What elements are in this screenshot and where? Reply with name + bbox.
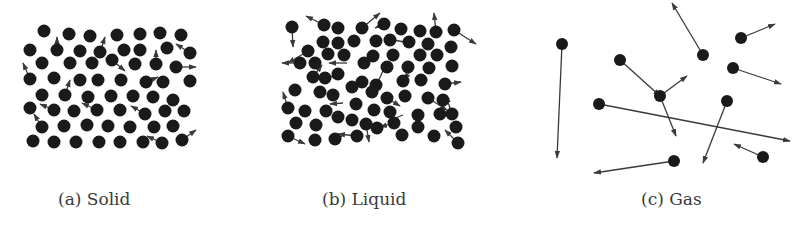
particle	[356, 22, 369, 35]
particle	[129, 58, 142, 71]
particle	[366, 86, 379, 99]
particle	[314, 86, 327, 99]
particle	[36, 121, 49, 134]
particle	[452, 137, 465, 150]
particle	[167, 94, 180, 107]
particle	[68, 105, 81, 118]
particle	[384, 34, 397, 47]
particle	[434, 108, 447, 121]
particle	[64, 57, 77, 70]
particle	[38, 25, 51, 38]
particle	[320, 105, 333, 118]
particle	[388, 117, 401, 130]
particle	[446, 108, 459, 121]
caption-solid: (a) Solid	[58, 189, 130, 209]
particle	[175, 29, 188, 42]
velocity-arrow	[599, 104, 790, 141]
particle	[735, 32, 747, 44]
particle	[721, 95, 733, 107]
particle	[127, 90, 140, 103]
particle	[102, 120, 115, 133]
particle	[148, 121, 161, 134]
particle	[115, 74, 128, 87]
particle	[338, 49, 351, 62]
particle	[24, 44, 37, 57]
particle	[63, 28, 76, 41]
particle	[302, 45, 315, 58]
velocity-arrow	[594, 161, 674, 173]
particle	[178, 105, 191, 118]
particle	[24, 73, 37, 86]
particle	[378, 18, 391, 31]
velocity-arrow	[703, 101, 727, 163]
particle	[51, 44, 64, 57]
particle	[286, 21, 299, 34]
particle	[289, 84, 302, 97]
particle	[395, 23, 408, 36]
particle	[150, 58, 163, 71]
particle	[118, 44, 131, 57]
particle	[414, 25, 427, 38]
particle	[86, 57, 99, 70]
particle	[137, 136, 150, 149]
particle	[450, 121, 463, 134]
particle	[161, 42, 174, 55]
particle	[134, 44, 147, 57]
particle	[412, 109, 425, 122]
particle	[156, 137, 169, 150]
particle	[318, 19, 331, 32]
particle	[332, 68, 345, 81]
particle	[105, 90, 118, 103]
particle	[332, 111, 345, 124]
particle	[111, 29, 124, 42]
particle	[294, 57, 307, 70]
particle	[422, 92, 435, 105]
particle	[91, 104, 104, 117]
particle	[402, 61, 415, 74]
particle	[310, 119, 323, 132]
velocity-arrow	[620, 60, 660, 96]
particle	[317, 36, 330, 49]
particle	[332, 37, 345, 50]
gas-panel	[556, 3, 790, 173]
particle	[332, 22, 345, 35]
particle	[422, 38, 435, 51]
particle	[48, 72, 61, 85]
particle	[445, 41, 458, 54]
particle	[415, 74, 428, 87]
particle	[397, 75, 410, 88]
particle	[727, 62, 739, 74]
particle	[159, 105, 172, 118]
particle	[48, 136, 61, 149]
particle	[370, 35, 383, 48]
particle	[428, 130, 441, 143]
particle	[70, 136, 83, 149]
particle	[157, 76, 170, 89]
particle	[614, 54, 626, 66]
particle	[147, 91, 160, 104]
particle	[106, 54, 119, 67]
particle	[329, 133, 342, 146]
velocity-arrow	[733, 68, 781, 84]
velocity-arrow	[672, 3, 703, 55]
particle	[697, 49, 709, 61]
velocity-arrow	[557, 44, 562, 158]
particle	[170, 61, 183, 74]
caption-gas: (c) Gas	[641, 189, 702, 209]
particle	[167, 120, 180, 133]
particle	[387, 49, 400, 62]
particle	[448, 24, 461, 37]
particle	[92, 74, 105, 87]
particle	[593, 98, 605, 110]
particle	[414, 49, 427, 62]
particle	[74, 45, 87, 58]
particle	[84, 30, 97, 43]
particle	[358, 57, 371, 70]
particle	[399, 90, 412, 103]
particle	[309, 57, 322, 70]
particle	[668, 155, 680, 167]
particle	[396, 129, 409, 142]
particle	[346, 114, 359, 127]
velocity-arrow	[330, 103, 343, 104]
liquid-panel	[282, 13, 477, 150]
